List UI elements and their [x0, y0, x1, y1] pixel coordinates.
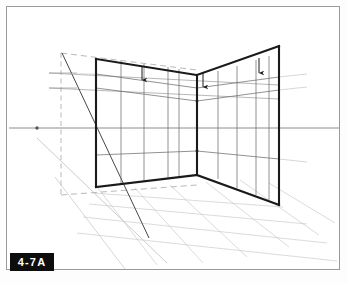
diagonal-major — [62, 53, 149, 238]
figure-number-text: 4-7A — [18, 256, 47, 268]
right-wall-bottom-edge — [197, 175, 279, 205]
measuring-line-top — [61, 53, 197, 70]
horizon-line-group — [9, 126, 339, 129]
floor-grid — [77, 180, 337, 265]
left-wall-top-edge — [96, 59, 197, 75]
figure-frame — [6, 6, 340, 270]
left-wall-grid — [96, 61, 197, 184]
right-wall-top-edge — [197, 46, 279, 75]
measuring-line-bottom — [61, 185, 197, 195]
perspective-drawing — [7, 7, 341, 271]
figure-container: 4-7A — [0, 0, 347, 285]
figure-number-label: 4-7A — [10, 253, 54, 271]
vanishing-point-left — [35, 126, 38, 129]
diagonal-construction — [37, 53, 167, 269]
diagonal-light-lower — [37, 138, 167, 263]
left-wall-bottom-edge — [96, 175, 197, 187]
guide-extensions — [67, 74, 307, 162]
wall-outlines — [96, 46, 279, 205]
